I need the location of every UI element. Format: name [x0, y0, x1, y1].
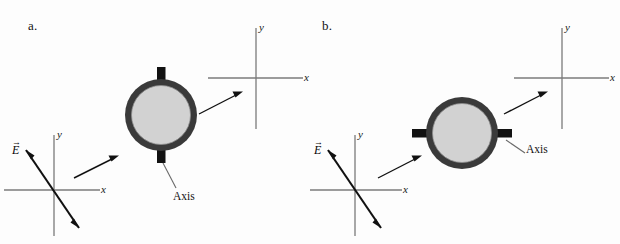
- coordinate-system-after-b: [514, 28, 609, 129]
- x-axis-label-after-b: x: [610, 71, 615, 83]
- panel-b-graphics: [310, 0, 620, 244]
- efield-letter: E: [314, 143, 321, 157]
- physics-figure: a.: [0, 0, 620, 244]
- y-axis-label-before-a: y: [57, 128, 62, 140]
- y-axis-label-after-a: y: [259, 21, 264, 33]
- x-axis-label-before-b: x: [403, 183, 408, 195]
- panel-a-graphics: [0, 0, 310, 244]
- connector-line: [74, 158, 114, 178]
- connector-arrow-ring-to-after-b: [504, 92, 548, 115]
- efield-arrowhead-upper: [328, 150, 337, 160]
- ring-assembly-a: [125, 67, 197, 163]
- efield-arrowhead-lower: [373, 219, 382, 229]
- connector-arrow-before-to-ring-b: [378, 156, 422, 179]
- x-axis-label-before-a: x: [101, 183, 106, 195]
- efield-letter: E: [12, 143, 19, 157]
- coordinate-system-before-b: [310, 135, 402, 236]
- connector-arrow-before-to-ring-a: [74, 156, 119, 179]
- efield-label-a: → E: [12, 140, 21, 156]
- efield-arrowhead-lower: [71, 219, 80, 229]
- panel-b: b.: [310, 0, 620, 244]
- axis-callout-label-b: Axis: [526, 143, 548, 155]
- connector-arrow-ring-to-after-a: [199, 92, 243, 115]
- coordinate-system-after-a: [208, 28, 303, 129]
- connector-line: [199, 94, 238, 114]
- axis-tab-bottom: [157, 149, 166, 163]
- axis-leader-line-a: [163, 163, 176, 188]
- y-axis-label-after-b: y: [565, 21, 570, 33]
- efield-arrowhead-upper: [26, 150, 35, 160]
- ring-assembly-b: [412, 97, 512, 169]
- axis-leader-line-b: [506, 140, 525, 153]
- efield-line: [26, 150, 79, 228]
- ring-inner-disc: [433, 104, 492, 163]
- axis-tab-right: [496, 129, 512, 138]
- axis-tab-top: [157, 67, 166, 81]
- x-axis-label-after-a: x: [304, 71, 309, 83]
- ring-inner-disc: [132, 86, 191, 145]
- axis-callout-label-a: Axis: [173, 190, 195, 202]
- efield-label-b: → E: [314, 140, 323, 156]
- panel-a: a.: [0, 0, 310, 244]
- connector-line: [504, 94, 543, 114]
- axis-tab-left: [412, 129, 428, 138]
- y-axis-label-before-b: y: [358, 128, 363, 140]
- connector-line: [378, 158, 417, 178]
